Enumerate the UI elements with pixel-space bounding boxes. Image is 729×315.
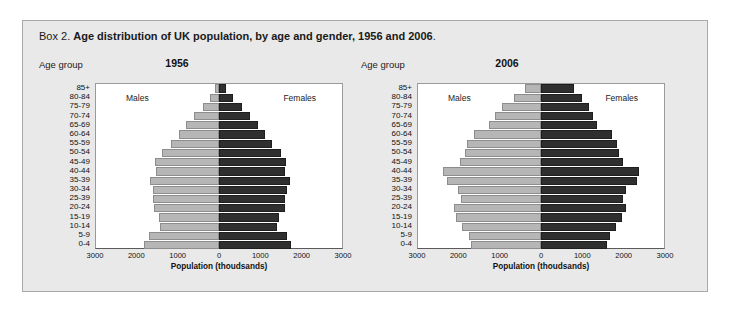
- age-group-label: 80-84: [31, 92, 93, 101]
- bar-male: [460, 158, 541, 166]
- x-axis-tick: 2000: [450, 251, 467, 260]
- bar-female: [219, 213, 279, 221]
- age-group-label: 70-74: [353, 111, 415, 120]
- bar-female: [219, 241, 291, 249]
- plot-area-1956: Males Females: [95, 83, 343, 249]
- pyramid-row: [418, 84, 664, 93]
- age-group-label: 15-19: [353, 212, 415, 221]
- age-group-label: 25-39: [31, 193, 93, 202]
- x-axis-tick: 1000: [574, 251, 591, 260]
- bar-female: [541, 241, 607, 249]
- chart-title-1956: 1956: [9, 57, 345, 69]
- bar-male: [186, 121, 219, 129]
- pyramid-row: [418, 176, 664, 185]
- pyramid-row: [96, 102, 342, 111]
- figure-title: Box 2. Age distribution of UK population…: [39, 30, 436, 42]
- bar-male: [467, 140, 541, 148]
- bar-female: [219, 167, 285, 175]
- bar-male: [155, 158, 219, 166]
- bar-female: [541, 121, 597, 129]
- x-axis-title-2006: Population (thoudsands): [417, 262, 665, 271]
- pyramid-row: [96, 139, 342, 148]
- pyramid-row: [96, 112, 342, 121]
- pyramid-row: [96, 149, 342, 158]
- bar-female: [219, 121, 258, 129]
- age-group-label: 60-64: [31, 129, 93, 138]
- age-group-label: 15-19: [31, 212, 93, 221]
- bar-male: [144, 241, 219, 249]
- pyramid-row: [418, 204, 664, 213]
- chart-title-2006: 2006: [339, 57, 675, 69]
- age-group-label: 20-24: [353, 202, 415, 211]
- series-label-females-2006: Females: [605, 93, 638, 103]
- bar-female: [541, 204, 626, 212]
- pyramid-row: [418, 130, 664, 139]
- pyramid-row: [418, 213, 664, 222]
- age-group-label: 10-14: [31, 221, 93, 230]
- pyramid-row: [418, 149, 664, 158]
- bar-male: [162, 149, 219, 157]
- figure-title-period: .: [433, 30, 436, 42]
- age-group-label: 25-39: [353, 193, 415, 202]
- age-group-label: 85+: [353, 83, 415, 92]
- bar-rows-1956: [96, 84, 342, 248]
- bar-male: [159, 213, 219, 221]
- pyramid-row: [96, 121, 342, 130]
- figure-container: Box 2. Age distribution of UK population…: [22, 20, 708, 292]
- bar-female: [541, 149, 619, 157]
- bar-male: [153, 186, 219, 194]
- age-group-label: 80-84: [353, 92, 415, 101]
- bar-female: [541, 103, 589, 111]
- bar-male: [179, 130, 219, 138]
- pyramid-row: [96, 195, 342, 204]
- bar-male: [469, 232, 541, 240]
- pyramid-row: [418, 222, 664, 231]
- bar-male: [461, 195, 541, 203]
- bar-male: [502, 103, 541, 111]
- pyramid-row: [96, 167, 342, 176]
- bar-female: [219, 103, 242, 111]
- bar-female: [541, 213, 622, 221]
- pyramid-row: [96, 130, 342, 139]
- x-axis-tick: 0: [217, 251, 221, 260]
- bar-female: [541, 130, 612, 138]
- pyramid-row: [418, 139, 664, 148]
- age-group-label: 65-69: [31, 120, 93, 129]
- bar-female: [541, 223, 616, 231]
- bar-female: [219, 195, 285, 203]
- pyramid-row: [96, 213, 342, 222]
- bar-male: [465, 149, 541, 157]
- age-group-label: 5-9: [31, 230, 93, 239]
- bar-female: [541, 167, 639, 175]
- pyramid-row: [96, 84, 342, 93]
- x-axis-tick: 3000: [657, 251, 674, 260]
- age-group-label: 30-34: [31, 184, 93, 193]
- age-group-label: 55-59: [31, 138, 93, 147]
- pyramid-row: [418, 185, 664, 194]
- bar-female: [219, 186, 287, 194]
- bar-male: [153, 195, 219, 203]
- bar-male: [495, 112, 541, 120]
- bar-male: [454, 204, 541, 212]
- pyramid-row: [418, 102, 664, 111]
- pyramid-row: [418, 158, 664, 167]
- chart-panel-1956: Age group 1956 85+80-8475-7970-7465-6960…: [31, 59, 367, 281]
- pyramid-row: [418, 167, 664, 176]
- x-axis-tick: 2000: [615, 251, 632, 260]
- pyramid-row: [96, 176, 342, 185]
- age-group-label: 10-14: [353, 221, 415, 230]
- bar-female: [541, 186, 626, 194]
- bar-female: [541, 140, 617, 148]
- bar-female: [219, 94, 233, 102]
- age-group-label: 40-44: [353, 166, 415, 175]
- pyramid-row: [96, 222, 342, 231]
- pyramid-row: [96, 232, 342, 241]
- age-group-label: 35-39: [31, 175, 93, 184]
- bar-male: [160, 223, 219, 231]
- bar-male: [525, 84, 541, 92]
- age-group-label: 65-69: [353, 120, 415, 129]
- plot-area-2006: Males Females: [417, 83, 665, 249]
- bar-female: [219, 223, 277, 231]
- bar-male: [447, 177, 541, 185]
- x-axis-tick: 2000: [128, 251, 145, 260]
